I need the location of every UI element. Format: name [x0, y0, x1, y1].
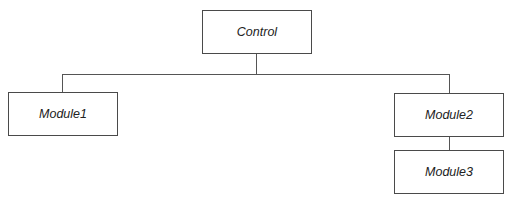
connector-control-down [256, 54, 257, 75]
connector-module2-module3 [449, 137, 450, 150]
node-module2: Module2 [394, 93, 504, 137]
node-label: Module2 [425, 108, 473, 122]
node-label: Module1 [39, 107, 87, 121]
node-label: Control [237, 25, 277, 39]
node-label: Module3 [425, 165, 473, 179]
connector-to-module1 [62, 74, 63, 92]
connector-horizontal [62, 74, 450, 75]
node-module3: Module3 [394, 150, 504, 194]
node-module1: Module1 [8, 92, 118, 136]
connector-to-module2 [449, 74, 450, 93]
node-control: Control [202, 10, 312, 54]
